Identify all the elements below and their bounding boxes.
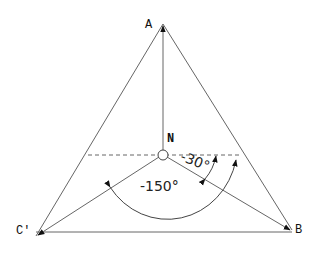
vector-diagram: A B C' N -30° -150° <box>0 0 321 253</box>
vectors <box>38 26 290 235</box>
outer-triangle <box>36 24 292 236</box>
label-c-prime: C' <box>16 224 30 238</box>
label-angle-30: -30° <box>178 148 212 174</box>
vector-n-c <box>38 157 159 235</box>
label-n: N <box>167 132 174 146</box>
vector-n-b <box>167 157 290 230</box>
label-angle-150: -150° <box>140 178 179 194</box>
label-b: B <box>295 223 302 237</box>
edge-a-c <box>36 24 163 236</box>
label-a: A <box>145 18 153 32</box>
node-n <box>158 150 168 160</box>
edge-a-b <box>163 24 292 230</box>
